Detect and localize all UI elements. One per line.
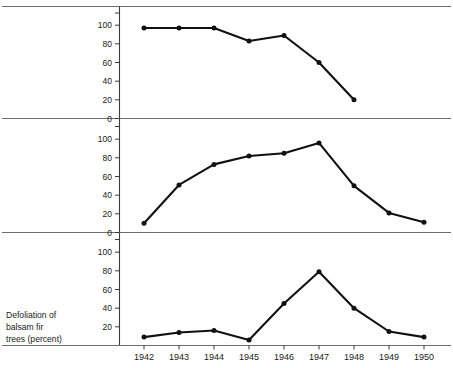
data-point [247,153,252,158]
data-point [317,60,322,65]
x-tick-label-1943: 1943 [169,352,189,362]
x-tick-label-1945: 1945 [239,352,259,362]
data-point [177,26,182,31]
data-point [282,33,287,38]
x-tick-label-1942: 1942 [134,352,154,362]
data-point [142,26,147,31]
panel-bottom-ytick-40: 40 [103,303,113,313]
x-tick-label-1950: 1950 [414,352,434,362]
data-point [317,140,322,145]
x-tick-label-1946: 1946 [274,352,294,362]
data-point [177,182,182,187]
panel-top-ytick-20: 20 [103,95,113,105]
data-point [212,162,217,167]
data-point [247,39,252,44]
panel-top-ytick-80: 80 [103,39,113,49]
data-point [317,269,322,274]
data-point [282,301,287,306]
data-point [422,335,427,340]
panel-top-ytick-40: 40 [103,76,113,86]
x-tick-label-1944: 1944 [204,352,224,362]
data-point [212,328,217,333]
data-point [352,183,357,188]
x-tick-label-1947: 1947 [309,352,329,362]
panel-top-ytick-60: 60 [103,58,113,68]
data-point [352,306,357,311]
chart-background [0,0,453,368]
y-axis-caption-line-2: balsam fir [6,322,43,332]
y-axis-caption-line-3: trees (percent) [6,334,62,344]
data-point [352,97,357,102]
data-point [282,151,287,156]
defoliation-chart-figure: 0 20 40 60 80 100 0 20 40 60 80 100 [0,0,453,368]
data-point [247,337,252,342]
y-axis-caption-line-1: Defoliation of [6,310,57,320]
panel-bottom-ytick-20: 20 [103,322,113,332]
panel-top-ytick-100: 100 [98,20,112,30]
data-point [142,221,147,226]
panel-bottom-ytick-100: 100 [98,247,112,257]
data-point [387,210,392,215]
panel-middle-ytick-60: 60 [103,172,113,182]
panel-middle-ytick-20: 20 [103,209,113,219]
x-axis-tick-labels: 194219431944194519461947194819491950 [134,352,434,362]
panel-top-ytick-0: 0 [107,114,112,124]
panel-bottom-ytick-80: 80 [103,266,113,276]
data-point [422,220,427,225]
panel-middle-ytick-80: 80 [103,153,113,163]
x-tick-label-1949: 1949 [379,352,399,362]
data-point [142,335,147,340]
panel-middle-ytick-0: 0 [107,228,112,238]
panel-bottom-ytick-60: 60 [103,285,113,295]
panel-middle-ytick-40: 40 [103,190,113,200]
data-point [212,26,217,31]
panel-middle-ytick-100: 100 [98,134,112,144]
x-tick-label-1948: 1948 [344,352,364,362]
data-point [177,330,182,335]
data-point [387,329,392,334]
